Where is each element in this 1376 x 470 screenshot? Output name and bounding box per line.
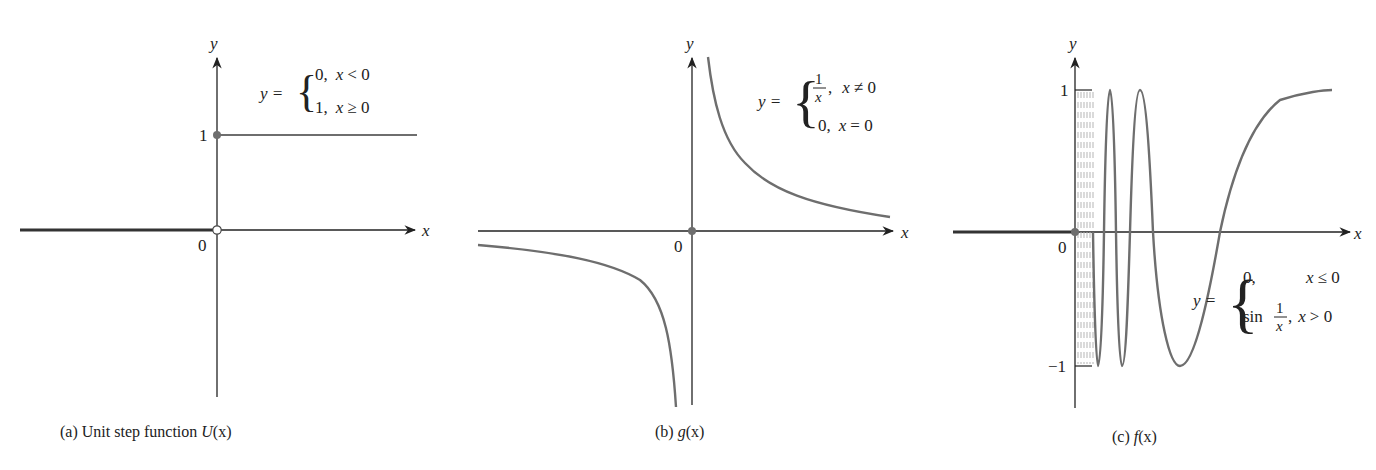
panel-b-frac-den: x [814, 89, 822, 105]
panel-c-case-1: 0, [1243, 268, 1256, 287]
panel-c-case-1-cond: x≤ 0 [1305, 268, 1340, 287]
panel-c-origin-label: 0 [1058, 238, 1067, 257]
panel-c-frac-num: 1 [1276, 300, 1284, 316]
panel-a-y-label: y [208, 34, 218, 53]
panel-b-origin-label: 0 [674, 237, 683, 256]
panel-c-sin-reciprocal: y x 0 1 −1 y = { 0, x≤ 0 sin 1 x ,x> 0 (… [953, 34, 1362, 446]
panel-b-eq-lhs: y = [756, 92, 781, 111]
panel-a-unit-step: y x 0 1 y = { 0,x< 0 1,x≥ 0 (a) Unit ste… [20, 34, 430, 441]
panel-c-eq-lhs: y = [1191, 291, 1216, 310]
panel-a-caption: (a) Unit step function U(x) [60, 423, 232, 441]
panel-c-equation: y = { 0, x≤ 0 sin 1 x ,x> 0 [1191, 266, 1340, 339]
panel-c-tick-neg-one-label: −1 [1048, 357, 1066, 376]
panel-b-point-origin [688, 227, 696, 235]
panel-b-case-1-cond: ,x≠ 0 [828, 78, 876, 97]
panel-b-equation: y = { 1 x ,x≠ 0 0,x= 0 [756, 69, 876, 135]
panel-c-tick-one-label: 1 [1060, 81, 1069, 100]
panel-a-tick-one: 1 [199, 126, 208, 145]
panel-c-dense-oscillation [1078, 92, 1093, 364]
panel-a-case-1: 0,x< 0 [315, 65, 370, 84]
brace-icon: { [296, 67, 317, 116]
panel-a-origin-label: 0 [198, 236, 207, 255]
panel-b-caption: (b) g(x) [655, 423, 704, 441]
panel-c-case-2-cond: ,x> 0 [1288, 307, 1332, 326]
panel-a-closed-point [213, 131, 221, 139]
panel-c-case-2-sin: sin [1243, 307, 1263, 326]
panel-b-frac-num: 1 [815, 71, 823, 87]
panel-c-caption: (c) f(x) [1112, 428, 1157, 446]
panel-b-reciprocal: y x 0 y = { 1 x ,x≠ 0 0,x= 0 (b) g(x) [478, 34, 909, 441]
panel-b-x-label: x [900, 223, 909, 242]
panel-c-point-origin [1071, 228, 1079, 236]
panel-a-case-2: 1,x≥ 0 [315, 98, 369, 117]
panel-b-y-label: y [684, 34, 694, 53]
panel-a-eq-lhs: y = [258, 84, 283, 103]
panel-a-x-label: x [421, 221, 430, 240]
figure-canvas: y x 0 1 y = { 0,x< 0 1,x≥ 0 (a) Unit ste… [0, 0, 1376, 470]
panel-c-x-label: x [1353, 224, 1362, 243]
panel-c-y-label: y [1067, 34, 1077, 53]
panel-c-curve-sin [1093, 90, 1332, 366]
panel-a-equation: y = { 0,x< 0 1,x≥ 0 [258, 65, 370, 117]
panel-b-curve-negative [478, 245, 676, 407]
panel-b-case-2: 0,x= 0 [818, 116, 873, 135]
panel-a-open-point [213, 226, 221, 234]
panel-c-frac-den: x [1275, 318, 1283, 334]
